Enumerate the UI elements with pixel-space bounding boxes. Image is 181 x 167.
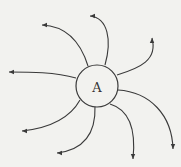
arrowhead-icon bbox=[57, 151, 62, 155]
node-a-label: A bbox=[91, 80, 102, 95]
arrow-upper-right bbox=[117, 38, 153, 75]
arrowhead-icon bbox=[42, 23, 47, 27]
arrow-right bbox=[118, 90, 173, 149]
arrow-upper-left bbox=[42, 25, 88, 66]
arrowhead-icon bbox=[90, 14, 95, 18]
field-lines-diagram: A bbox=[0, 0, 181, 167]
arrow-left bbox=[9, 72, 76, 78]
diagram-canvas: A bbox=[0, 0, 181, 167]
arrowhead-icon bbox=[22, 129, 27, 133]
arrow-lower-right bbox=[110, 104, 134, 159]
arrowhead-icon bbox=[171, 144, 175, 149]
arrowhead-icon bbox=[9, 70, 14, 74]
arrow-top bbox=[90, 16, 108, 65]
arrowhead-icon bbox=[150, 38, 154, 43]
arrowhead-icon bbox=[131, 154, 135, 159]
arrow-lower-left bbox=[22, 100, 80, 131]
arrow-bottom bbox=[57, 106, 95, 153]
